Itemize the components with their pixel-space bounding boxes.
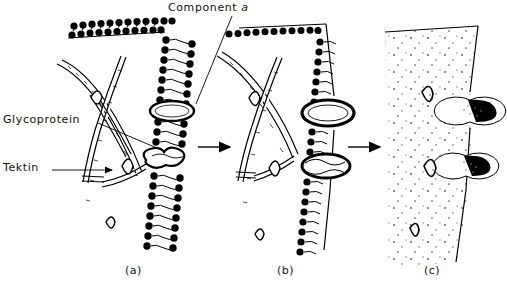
leader-line-component-a [196,16,232,104]
label-glycoprotein: Glycoprotein [3,113,80,126]
membrane-sheet-edge-b [324,24,334,250]
membrane-fold-edge-b [239,24,326,28]
component-a-ring-upper-panel-b [302,100,354,126]
panel-caption-b: (b) [277,264,294,277]
tektin-filaments-b [217,52,298,182]
monolayer-heads-b-vertical [296,38,323,255]
panel-caption-a: (a) [125,264,142,277]
label-component-prefix: Component [168,1,237,14]
panel-a-artwork [57,17,196,251]
fracture-particle-lower-c [433,153,499,179]
panel-b-artwork [217,24,354,256]
panel-c-artwork [385,26,506,268]
figure-artwork [0,0,507,287]
panel-caption-c: (c) [424,264,440,277]
component-a-ring-lower-panel-b [302,154,350,178]
label-component-italic: a [237,1,248,14]
label-component-a: Componenta [168,1,249,14]
figure-membrane-freeze-fracture: Glycoprotein Tektin Componenta (a) (b) (… [0,0,507,287]
fracture-particle-upper-c [434,97,505,125]
component-a-ring-upper-panel-a [150,101,194,121]
bilayer-vertical-a [143,36,195,251]
label-tektin: Tektin [3,161,39,174]
fracture-face-fill-c [385,26,478,268]
